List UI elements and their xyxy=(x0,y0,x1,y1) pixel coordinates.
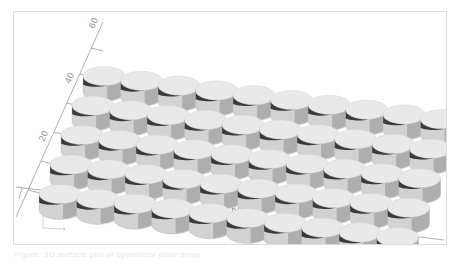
y-tick-label-20: 20 xyxy=(37,129,51,143)
y-tick-label-40: 40 xyxy=(63,71,77,85)
cylinder-marker xyxy=(114,194,156,229)
cylinder-marker xyxy=(339,223,381,244)
cylinder-marker xyxy=(227,208,269,243)
cylinder-marker xyxy=(39,184,81,219)
y-tick-label-60: 60 xyxy=(87,16,101,30)
cylinder-marker xyxy=(152,199,194,234)
cylinder-marker xyxy=(77,189,119,224)
cylinder-marker xyxy=(302,218,344,244)
cylinder-array xyxy=(39,66,446,244)
cylinder-marker xyxy=(264,213,306,244)
figure-frame: 20 40 60 xyxy=(13,11,447,245)
cylinder-marker xyxy=(189,204,231,239)
three-d-cylinder-plot: 20 40 60 xyxy=(14,12,446,244)
figure-caption: Figure: 3D surface plot of cylindrical p… xyxy=(14,250,454,259)
